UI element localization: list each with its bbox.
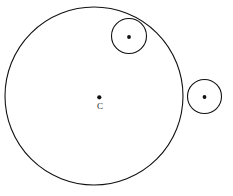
main-center-point <box>97 95 101 99</box>
center-label-c: C <box>97 101 103 111</box>
circle-diagram-svg: C <box>0 0 233 196</box>
top-circle-center-point <box>127 35 131 39</box>
diagram-canvas: C <box>0 0 233 196</box>
right-circle-center-point <box>203 95 207 99</box>
